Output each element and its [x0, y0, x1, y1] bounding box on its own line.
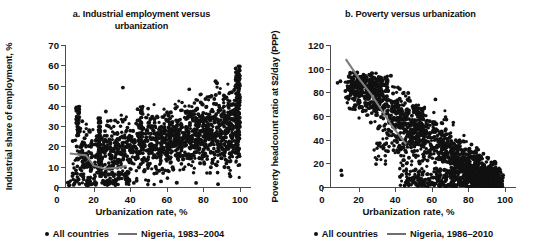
panel-a-ytick-label-20: 20 — [48, 141, 59, 152]
panel-a-x-axis-title: Urbanization rate, % — [20, 206, 263, 217]
figure-two-panel-scatter: a. Industrial employment versus urbaniza… — [0, 0, 538, 251]
panel-a-y-axis-title: Industrial share of employment, % — [2, 45, 16, 187]
panel-b-x-axis-title: Urbanization rate, % — [285, 206, 532, 217]
panel-b-ytick-label-100: 100 — [308, 63, 324, 74]
panel-a-title: a. Industrial employment versus urbaniza… — [20, 9, 263, 32]
panel-a-xtick-0 — [57, 187, 58, 192]
panel-b-scatter-canvas — [331, 45, 514, 188]
panel-b-y-axis-title: Poverty headcount ratio at $2/day (PPP) — [268, 45, 282, 187]
panel-b-ytick-label-20: 20 — [313, 158, 324, 169]
panel-a-ytick-label-30: 30 — [48, 121, 59, 132]
panel-a-xtick-label-40: 40 — [125, 194, 136, 205]
panel-a-ytick-label-40: 40 — [48, 100, 59, 111]
panel-a-ytick-label-60: 60 — [48, 60, 59, 71]
panel-b-legend-item-nigeria: Nigeria, 1986–2010 — [387, 229, 493, 239]
panel-b-title: b. Poverty versus urbanization — [289, 9, 532, 21]
panel-a-xtick-label-100: 100 — [232, 194, 248, 205]
panel-a-title-line2: urbanization — [20, 21, 263, 33]
panel-b-ytick-label-120: 120 — [308, 40, 324, 51]
panel-b-title-line1: b. Poverty versus urbanization — [289, 9, 532, 21]
scatter-dot-icon — [314, 232, 318, 236]
panel-b-ytick-label-40: 40 — [313, 134, 324, 145]
panel-b-ytick-label-60: 60 — [313, 111, 324, 122]
panel-a-points — [66, 64, 242, 187]
panel-b-xtick-label-0: 0 — [319, 194, 324, 205]
panel-a-legend-label-points: All countries — [53, 229, 109, 239]
panel-b-legend-label-line: Nigeria, 1986–2010 — [410, 229, 493, 239]
panel-b-ytick-label-80: 80 — [313, 87, 324, 98]
trendline-swatch-icon — [387, 233, 406, 235]
panel-a-legend-label-line: Nigeria, 1983–2004 — [141, 229, 224, 239]
panel-b-legend-item-all-countries: All countries — [314, 229, 378, 239]
panel-a-xtick-label-60: 60 — [161, 194, 172, 205]
panel-b-xtick-0 — [322, 187, 323, 192]
panel-a-ytick-label-50: 50 — [48, 80, 59, 91]
panel-a-industrial-employment: a. Industrial employment versus urbaniza… — [0, 0, 269, 251]
panel-a-xtick-label-0: 0 — [54, 194, 59, 205]
panel-a-xtick-label-80: 80 — [198, 194, 209, 205]
panel-b-xtick-label-80: 80 — [463, 194, 474, 205]
scatter-dot-icon — [45, 232, 49, 236]
panel-a-ytick-label-70: 70 — [48, 40, 59, 51]
panel-a-ytick-label-10: 10 — [48, 161, 59, 172]
panel-a-legend-item-nigeria: Nigeria, 1983–2004 — [118, 229, 224, 239]
panel-b-legend: All countries Nigeria, 1986–2010 — [269, 229, 538, 239]
panel-b-poverty: b. Poverty versus urbanization Poverty h… — [269, 0, 538, 251]
panel-a-title-line1: a. Industrial employment versus — [20, 9, 263, 21]
panel-a-scatter-canvas — [66, 45, 249, 188]
panel-a-legend-item-all-countries: All countries — [45, 229, 109, 239]
trendline-swatch-icon — [118, 233, 137, 235]
panel-b-xtick-label-20: 20 — [353, 194, 364, 205]
panel-b-legend-label-points: All countries — [322, 229, 378, 239]
panel-b-xtick-label-100: 100 — [497, 194, 513, 205]
panel-b-points — [336, 71, 505, 188]
panel-a-plot-area: 0 10 20 30 40 50 60 70 0 20 40 60 80 100 — [66, 45, 249, 187]
panel-b-xtick-label-40: 40 — [390, 194, 401, 205]
panel-a-xtick-label-20: 20 — [88, 194, 99, 205]
panel-b-xtick-label-60: 60 — [426, 194, 437, 205]
panel-a-legend: All countries Nigeria, 1983–2004 — [0, 229, 269, 239]
panel-b-plot-area: 0 20 40 60 80 100 120 0 20 40 60 80 100 — [331, 45, 514, 187]
